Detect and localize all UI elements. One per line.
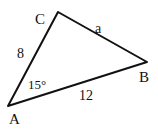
side-label-ac: 8 [17, 46, 24, 61]
vertex-label-a: A [9, 111, 20, 127]
side-label-ab: 12 [79, 88, 93, 103]
side-label-a: a [95, 21, 102, 36]
vertex-label-b: B [139, 69, 149, 85]
triangle-diagram: C a 8 15° B 12 A [0, 0, 158, 134]
angle-label-a: 15° [28, 77, 46, 92]
vertex-label-c: C [35, 11, 45, 27]
